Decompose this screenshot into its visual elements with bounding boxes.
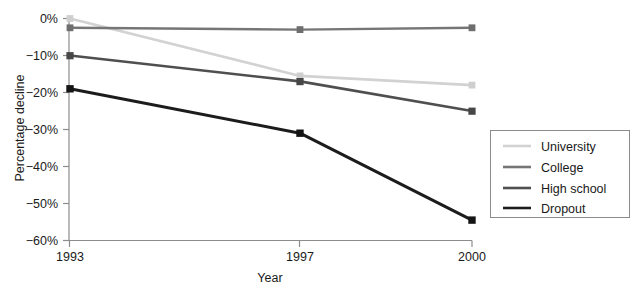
y-tick-label-3: −30% (26, 123, 58, 137)
legend: University College High school Dropout (491, 131, 630, 218)
y-tick-label-6: −60% (26, 234, 58, 248)
y-tick-label-1: −10% (26, 49, 58, 63)
x-tick-label-1993: 1993 (56, 250, 84, 264)
line-chart: Percentage decline 0% −10% −20% −30% −40… (0, 0, 635, 289)
y-tick-label-2: −20% (26, 86, 58, 100)
data-point-marker (67, 15, 74, 22)
y-tick-label-5: −50% (26, 197, 58, 211)
series-dropout (66, 85, 475, 224)
legend-label-college: College (541, 161, 583, 175)
chart-page: Percentage decline 0% −10% −20% −30% −40… (0, 0, 635, 289)
data-point-marker (66, 52, 73, 59)
y-axis-tick-labels: 0% −10% −20% −30% −40% −50% −60% (26, 12, 58, 248)
series-high-school (66, 52, 475, 115)
x-tick-label-2000: 2000 (458, 250, 486, 264)
y-axis-ticks (63, 19, 69, 241)
x-axis-tick-labels: 1993 1997 2000 (56, 250, 486, 264)
series-high-school-line (70, 56, 472, 112)
data-point-marker (296, 130, 303, 137)
legend-label-high-school: High school (541, 182, 606, 196)
x-axis-title: Year (257, 271, 282, 285)
data-point-marker (469, 82, 476, 89)
series-dropout-line (70, 89, 472, 220)
data-point-marker (468, 216, 475, 223)
data-point-marker (468, 108, 475, 115)
data-point-marker (296, 78, 303, 85)
y-tick-label-4: −40% (26, 160, 58, 174)
y-tick-label-0: 0% (40, 12, 58, 26)
legend-label-university: University (541, 140, 597, 154)
data-point-marker (67, 24, 74, 31)
series-college-line (70, 28, 472, 30)
data-point-marker (469, 24, 476, 31)
x-axis-ticks (70, 241, 473, 248)
data-point-marker (297, 26, 304, 33)
x-tick-label-1997: 1997 (286, 250, 314, 264)
data-point-marker (66, 85, 73, 92)
legend-label-dropout: Dropout (541, 202, 586, 216)
